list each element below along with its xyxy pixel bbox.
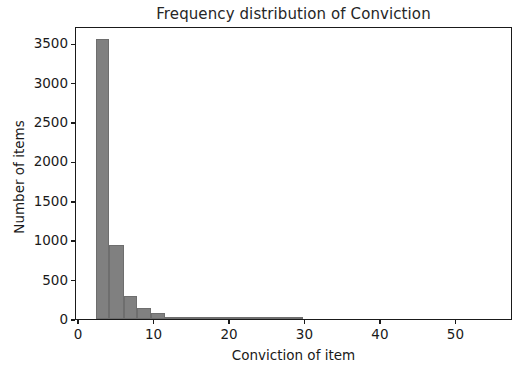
x-tick-mark bbox=[455, 320, 457, 324]
histogram-bar bbox=[192, 317, 206, 319]
histogram-bar bbox=[124, 296, 138, 319]
y-axis: Number of items 050010001500200025003000… bbox=[0, 27, 75, 320]
histogram-bar bbox=[165, 317, 179, 319]
histogram-bar bbox=[109, 245, 123, 319]
x-axis: Conviction of item 01020304050 bbox=[75, 320, 512, 368]
histogram-bar bbox=[96, 39, 110, 319]
x-tick-label: 50 bbox=[425, 326, 485, 342]
x-tick-mark bbox=[153, 320, 155, 324]
histogram-bar bbox=[151, 313, 165, 319]
y-tick-label: 1500 bbox=[34, 193, 68, 209]
chart-title: Frequency distribution of Conviction bbox=[75, 5, 512, 23]
histogram-bar bbox=[179, 317, 193, 319]
histogram-bars bbox=[76, 28, 511, 319]
y-tick-label: 3000 bbox=[34, 75, 68, 91]
histogram-bar bbox=[290, 317, 304, 319]
histogram-bar bbox=[207, 317, 221, 319]
y-tick-label: 0 bbox=[59, 311, 68, 327]
y-tick-label: 3500 bbox=[34, 35, 68, 51]
x-tick-mark bbox=[379, 320, 381, 324]
plot-area bbox=[75, 27, 512, 320]
x-tick-label: 10 bbox=[123, 326, 183, 342]
histogram-bar bbox=[234, 317, 248, 319]
histogram-bar bbox=[248, 317, 262, 319]
x-tick-mark bbox=[228, 320, 230, 324]
y-axis-label: Number of items bbox=[11, 57, 27, 297]
x-tick-mark bbox=[304, 320, 306, 324]
x-tick-mark bbox=[77, 320, 79, 324]
y-tick-label: 2500 bbox=[34, 114, 68, 130]
y-tick-label: 2000 bbox=[34, 153, 68, 169]
y-tick-label: 500 bbox=[42, 272, 68, 288]
x-tick-label: 20 bbox=[199, 326, 259, 342]
histogram-figure: Frequency distribution of Conviction Num… bbox=[0, 0, 519, 368]
histogram-bar bbox=[137, 308, 151, 319]
histogram-bar bbox=[275, 317, 289, 319]
histogram-bar bbox=[220, 317, 234, 319]
x-tick-label: 0 bbox=[48, 326, 108, 342]
y-tick-label: 1000 bbox=[34, 232, 68, 248]
x-tick-label: 30 bbox=[274, 326, 334, 342]
histogram-bar bbox=[262, 317, 276, 319]
x-tick-label: 40 bbox=[350, 326, 410, 342]
x-axis-label: Conviction of item bbox=[75, 347, 512, 363]
